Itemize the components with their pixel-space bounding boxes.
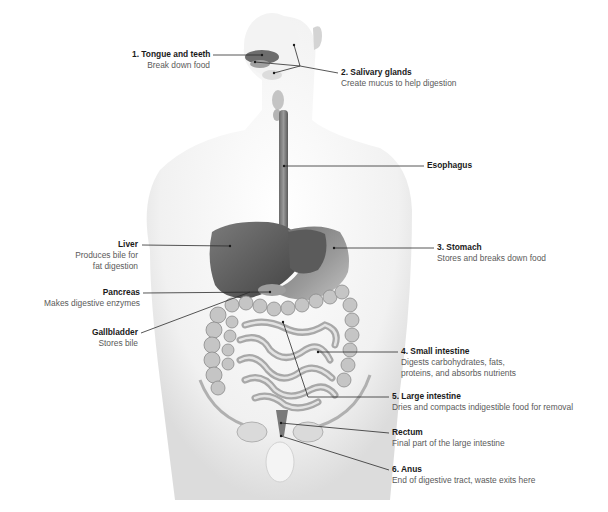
label-desc: Stores bile — [92, 338, 138, 349]
label-esophagus: Esophagus — [427, 160, 472, 171]
label-desc: Break down food — [132, 60, 210, 71]
label-title: Liver — [75, 239, 138, 250]
label-desc: Stores and breaks down food — [437, 253, 546, 264]
label-desc: proteins, and absorbs nutrients — [401, 368, 516, 379]
label-title: 3. Stomach — [437, 242, 546, 253]
label-title: 5. Large intestine — [392, 391, 573, 402]
label-anus: 6. Anus End of digestive tract, waste ex… — [392, 464, 535, 486]
label-salivary-glands: 2. Salivary glands Create mucus to help … — [341, 67, 456, 89]
label-small-intestine: 4. Small intestine Digests carbohydrates… — [401, 346, 516, 379]
label-desc: Dries and compacts indigestible food for… — [392, 402, 573, 413]
label-title: Pancreas — [44, 287, 140, 298]
label-title: Esophagus — [427, 160, 472, 171]
label-tongue-and-teeth: 1. Tongue and teeth Break down food — [132, 49, 210, 71]
label-title: 4. Small intestine — [401, 346, 516, 357]
label-desc: Final part of the large intestine — [392, 438, 505, 449]
label-liver: Liver Produces bile for fat digestion — [75, 239, 138, 272]
label-pancreas: Pancreas Makes digestive enzymes — [44, 287, 140, 309]
label-title: 6. Anus — [392, 464, 535, 475]
label-title: Rectum — [392, 427, 505, 438]
label-desc: fat digestion — [75, 261, 138, 272]
label-desc: End of digestive tract, waste exits here — [392, 475, 535, 486]
label-desc: Produces bile for — [75, 250, 138, 261]
label-rectum: Rectum Final part of the large intestine — [392, 427, 505, 449]
label-desc: Digests carbohydrates, fats, — [401, 357, 516, 368]
esophagus-organ — [279, 110, 288, 230]
label-desc: Create mucus to help digestion — [341, 78, 456, 89]
genital-outline — [266, 442, 294, 482]
pancreas-organ — [258, 284, 286, 296]
label-stomach: 3. Stomach Stores and breaks down food — [437, 242, 546, 264]
label-title: 1. Tongue and teeth — [132, 49, 210, 60]
label-title: 2. Salivary glands — [341, 67, 456, 78]
label-desc: Makes digestive enzymes — [44, 298, 140, 309]
label-large-intestine: 5. Large intestine Dries and compacts in… — [392, 391, 573, 413]
label-title: Gallbladder — [92, 327, 138, 338]
label-gallbladder: Gallbladder Stores bile — [92, 327, 138, 349]
